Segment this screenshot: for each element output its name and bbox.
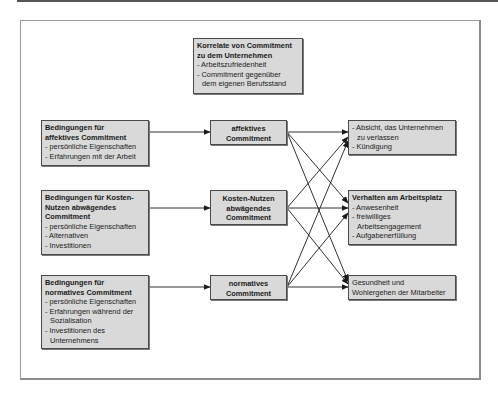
list-item: - Anwesenheit — [352, 203, 452, 213]
list-item: - Aufgabenerfüllung — [352, 231, 452, 241]
correlates-item: - Arbeitszufriedenheit — [197, 60, 299, 70]
list-item: - persönliche Eigenschaften — [45, 297, 145, 307]
correlates-title-1: Korrelate von Commitment — [197, 41, 299, 51]
list-item: - Alternativen — [45, 231, 145, 241]
box-label: Commitment — [214, 213, 283, 223]
box-title: Bedingungen für — [45, 123, 145, 133]
list-item: - persönliche Eigenschaften — [45, 142, 145, 152]
box-label: affektives — [214, 124, 283, 134]
list-item: - Erfahrungen während der — [45, 307, 145, 317]
correlates-item-cont: dem eigenen Berufsstand — [197, 79, 299, 89]
box-title: Bedingungen für — [45, 278, 145, 288]
box-title: Commitment — [45, 212, 145, 222]
list-item-cont: Unternehmens — [45, 336, 145, 346]
outcome-health-box: Gesundheit und Wohlergehen der Mitarbeit… — [348, 275, 456, 300]
list-item: - Absicht, das Unternehmen — [352, 123, 452, 133]
list-item: - freiwilliges — [352, 212, 452, 222]
outcome-workplace-behavior-box: Verhalten am Arbeitsplatz - Anwesenheit … — [348, 190, 456, 245]
conditions-cost-benefit-box: Bedingungen für Kosten- Nutzen abwägende… — [41, 190, 149, 255]
list-item: - Kündigung — [352, 142, 452, 152]
correlates-box: Korrelate von Commitment zu dem Unterneh… — [193, 38, 303, 94]
list-item: Wohlergehen der Mitarbeiter — [352, 288, 452, 298]
conditions-normative-box: Bedingungen für normatives Commitment - … — [41, 275, 149, 349]
outcome-turnover-box: - Absicht, das Unternehmen zu verlassen … — [348, 120, 456, 155]
box-label: normatives — [214, 279, 283, 289]
normative-commitment-box: normatives Commitment — [210, 275, 287, 300]
box-title: normatives Commitment — [45, 288, 145, 298]
cost-benefit-commitment-box: Kosten-Nutzen abwägendes Commitment — [210, 190, 287, 225]
box-title: Verhalten am Arbeitsplatz — [352, 193, 452, 203]
correlates-item: - Commitment gegenüber — [197, 70, 299, 80]
list-item: Gesundheit und — [352, 278, 452, 288]
box-title: affektives Commitment — [45, 133, 145, 143]
list-item: - persönliche Eigenschaften — [45, 222, 145, 232]
box-label: Commitment — [214, 289, 283, 299]
box-title: Bedingungen für Kosten- — [45, 193, 145, 203]
list-item: - Erfahrungen mit der Arbeit — [45, 152, 145, 162]
list-item-cont: Sozialisation — [45, 316, 145, 326]
box-label: abwägendes — [214, 204, 283, 214]
correlates-title-2: zu dem Unternehmen — [197, 51, 299, 61]
list-item: - Investitionen des — [45, 326, 145, 336]
box-label: Commitment — [214, 134, 283, 144]
affective-commitment-box: affektives Commitment — [210, 120, 287, 145]
list-item-cont: Arbeitsengagement — [352, 222, 452, 232]
list-item-cont: zu verlassen — [352, 133, 452, 143]
box-title: Nutzen abwägendes — [45, 203, 145, 213]
list-item: - Investitionen — [45, 241, 145, 251]
conditions-affective-box: Bedingungen für affektives Commitment - … — [41, 120, 149, 166]
box-label: Kosten-Nutzen — [214, 194, 283, 204]
